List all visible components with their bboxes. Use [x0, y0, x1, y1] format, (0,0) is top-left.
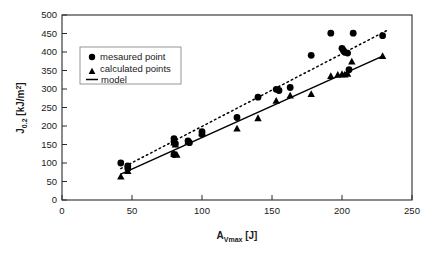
y-axis-title-close: ] — [15, 82, 26, 85]
legend: mesaured point calculated points model — [80, 47, 181, 85]
chart-figure: 0 50 100 150 200 250 300 350 400 450 500… — [0, 0, 439, 258]
scatter-plot: 0 50 100 150 200 250 300 350 400 450 500… — [0, 0, 439, 258]
x-tick-label: 250 — [404, 205, 420, 216]
y-tick-label: 400 — [41, 46, 57, 57]
data-point-measured — [350, 30, 357, 37]
x-axis-title-subscript: Vmax — [224, 236, 243, 243]
data-point-measured — [327, 30, 334, 37]
y-tick-label: 150 — [41, 139, 57, 150]
legend-circle-marker-icon — [89, 54, 95, 60]
y-tick-label: 200 — [41, 120, 57, 131]
y-tick-label: 50 — [46, 176, 57, 187]
legend-label-measured: mesaured point — [100, 51, 166, 62]
data-point-measured — [344, 50, 351, 57]
y-tick-label: 350 — [41, 65, 57, 76]
x-tick-label: 50 — [127, 205, 138, 216]
y-tick-label: 100 — [41, 157, 57, 168]
x-tick-label: 0 — [59, 205, 64, 216]
y-tick-label: 450 — [41, 28, 57, 39]
x-tick-label: 200 — [334, 205, 350, 216]
y-tick-label: 0 — [52, 194, 57, 205]
y-axis-title-subscript: 0.2 — [21, 118, 28, 128]
data-point-measured — [379, 32, 386, 39]
y-tick-label: 300 — [41, 83, 57, 94]
data-point-measured — [308, 52, 315, 59]
data-point-measured — [276, 87, 283, 94]
legend-label-model: model — [101, 74, 127, 85]
y-axis-title-unit: [kJ/m — [15, 89, 26, 118]
y-tick-label: 500 — [41, 9, 57, 20]
x-tick-label: 100 — [194, 205, 210, 216]
data-point-measured — [255, 94, 262, 101]
x-tick-label: 150 — [264, 205, 280, 216]
y-tick-label: 250 — [41, 102, 57, 113]
data-point-measured — [234, 114, 241, 121]
x-axis-title-main: A — [217, 230, 224, 241]
x-axis-title-unit: [J] — [242, 230, 257, 241]
legend-label-calculated: calculated points — [100, 63, 171, 74]
data-point-measured — [117, 160, 124, 167]
data-point-measured — [287, 84, 294, 91]
